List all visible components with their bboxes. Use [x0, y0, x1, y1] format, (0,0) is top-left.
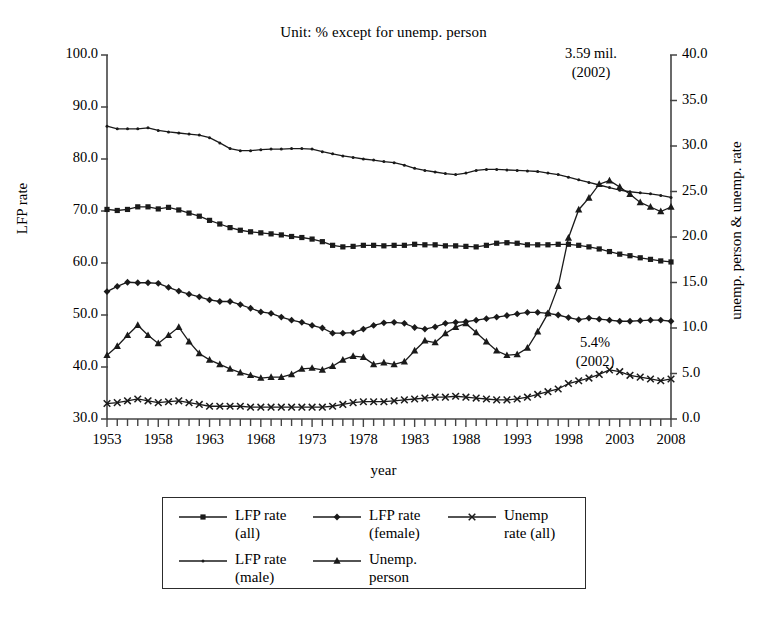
series-lfp-rate-female — [104, 279, 675, 337]
legend-label: Unemp. person — [369, 550, 417, 587]
chart-legend: LFP rate (all)LFP rate (female)Unemp rat… — [162, 497, 586, 589]
y-tick-label-right: 30.0 — [682, 136, 742, 153]
y-tick-label-left: 30.0 — [30, 409, 98, 426]
y-tick-label-right: 5.0 — [682, 364, 742, 381]
legend-label: Unemp rate (all) — [504, 506, 555, 543]
y-tick-label-right: 10.0 — [682, 318, 742, 335]
chart-figure: Unit: % except for unemp. person LFP rat… — [0, 0, 767, 619]
annotation-unemp-rate-peak: 5.4%(2002) — [545, 333, 645, 370]
legend-label: LFP rate (male) — [235, 550, 287, 587]
legend-marker-x-icon — [446, 509, 498, 525]
legend-item-unemp-person[interactable]: Unemp. person — [311, 550, 417, 587]
y-tick-label-right: 0.0 — [682, 409, 742, 426]
y-tick-label-right: 35.0 — [682, 91, 742, 108]
legend-item-lfp-all[interactable]: LFP rate (all) — [177, 506, 287, 543]
y-tick-label-left: 80.0 — [30, 149, 98, 166]
y-tick-label-left: 40.0 — [30, 357, 98, 374]
annotation-line-1: 3.59 mil. — [541, 44, 641, 63]
legend-label: LFP rate (female) — [369, 506, 421, 543]
y-tick-label-left: 70.0 — [30, 201, 98, 218]
legend-marker-diamond-icon — [311, 509, 363, 525]
series-unemp-rate-all — [104, 367, 675, 411]
annotation-line-2: (2002) — [545, 352, 645, 371]
y-tick-label-right: 20.0 — [682, 227, 742, 244]
legend-label: LFP rate (all) — [235, 506, 287, 543]
legend-item-lfp-male[interactable]: LFP rate (male) — [177, 550, 287, 587]
legend-marker-triangle-icon — [311, 553, 363, 569]
legend-marker-square-icon — [177, 509, 229, 525]
y-tick-label-left: 90.0 — [30, 97, 98, 114]
legend-item-lfp-female[interactable]: LFP rate (female) — [311, 506, 421, 543]
legend-item-unemp-rate-all[interactable]: Unemp rate (all) — [446, 506, 555, 543]
series-lfp-rate-male — [106, 125, 673, 199]
annotation-line-1: 5.4% — [545, 333, 645, 352]
y-tick-label-left: 100.0 — [30, 45, 98, 62]
legend-marker-dot-icon — [177, 553, 229, 569]
series-lfp-rate-all — [104, 204, 673, 264]
annotation-line-2: (2002) — [541, 63, 641, 82]
y-tick-label-left: 50.0 — [30, 305, 98, 322]
y-tick-label-left: 60.0 — [30, 253, 98, 270]
annotation-unemp-person-peak: 3.59 mil.(2002) — [541, 44, 641, 81]
y-tick-label-right: 25.0 — [682, 182, 742, 199]
x-tick-label: 2008 — [641, 431, 701, 448]
y-tick-label-right: 40.0 — [682, 45, 742, 62]
y-tick-label-right: 15.0 — [682, 273, 742, 290]
